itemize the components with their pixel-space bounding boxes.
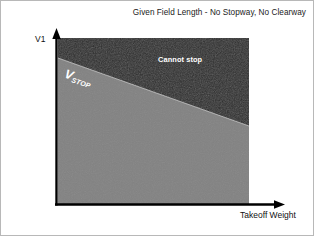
cannot-stop-label: Cannot stop	[158, 55, 202, 64]
y-axis-label: V1	[35, 34, 45, 44]
figure-root: Given Field Length - No Stopway, No Clea…	[0, 0, 314, 236]
chart-title: Given Field Length - No Stopway, No Clea…	[133, 8, 306, 17]
x-axis-label: Takeoff Weight	[240, 210, 296, 220]
plot-area: Cannot stop VSTOP	[58, 38, 249, 205]
plot-regions-svg	[58, 38, 249, 205]
x-axis-arrowhead	[274, 200, 285, 209]
